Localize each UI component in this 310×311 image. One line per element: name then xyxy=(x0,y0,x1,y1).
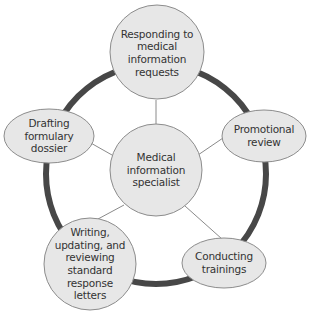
connector-promotional xyxy=(198,138,223,155)
center-node-shape xyxy=(110,124,202,216)
node-responding-shape xyxy=(110,5,204,99)
node-drafting-shape xyxy=(4,109,94,163)
role-cycle-diagram xyxy=(0,0,310,311)
node-writing-shape xyxy=(44,218,136,310)
connector-conducting xyxy=(185,206,222,239)
node-conducting-shape xyxy=(182,238,266,288)
connector-writing xyxy=(98,205,124,219)
node-promotional-shape xyxy=(222,110,306,162)
